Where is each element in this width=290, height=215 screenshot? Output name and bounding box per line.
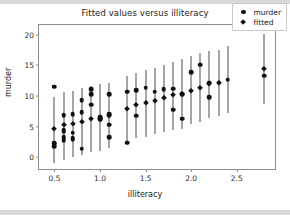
y-tick-label: 20 bbox=[24, 30, 34, 39]
x-axis-label: illiteracy bbox=[0, 190, 290, 199]
data-point-murder bbox=[80, 146, 85, 151]
data-point-fitted bbox=[188, 87, 194, 93]
plot-area bbox=[39, 25, 275, 169]
data-point-murder bbox=[52, 85, 57, 90]
data-point-murder bbox=[171, 86, 176, 91]
data-point-fitted bbox=[133, 102, 139, 108]
x-tick-mark bbox=[100, 169, 101, 172]
data-point-murder bbox=[143, 85, 148, 90]
data-point-murder bbox=[152, 89, 157, 94]
x-tick-mark bbox=[237, 169, 238, 172]
data-point-murder bbox=[61, 113, 66, 118]
data-point-fitted bbox=[70, 121, 76, 127]
data-point-murder bbox=[70, 112, 75, 117]
data-point-fitted bbox=[197, 84, 203, 90]
data-point-fitted bbox=[161, 95, 167, 101]
legend-label: murder bbox=[254, 8, 281, 17]
data-point-fitted bbox=[143, 100, 149, 106]
x-tick-mark bbox=[54, 169, 55, 172]
y-tick-mark bbox=[36, 157, 39, 158]
data-point-fitted bbox=[79, 119, 85, 125]
data-point-murder bbox=[80, 98, 85, 103]
y-tick-mark bbox=[36, 65, 39, 66]
data-point-murder bbox=[107, 92, 112, 97]
window-bottom-strip bbox=[0, 210, 290, 215]
data-point-fitted bbox=[51, 126, 57, 132]
data-point-murder bbox=[225, 77, 230, 82]
data-point-murder bbox=[207, 95, 212, 100]
data-point-murder bbox=[125, 89, 130, 94]
data-point-murder bbox=[70, 131, 75, 136]
data-point-murder bbox=[134, 88, 139, 93]
data-point-murder bbox=[198, 63, 203, 68]
y-tick-mark bbox=[36, 96, 39, 97]
y-tick-label: 0 bbox=[29, 153, 34, 162]
plot-axes: 051015200.51.01.52.02.5 bbox=[38, 24, 276, 170]
x-tick-label: 1.5 bbox=[140, 174, 152, 183]
data-point-murder bbox=[89, 87, 94, 92]
data-point-fitted bbox=[88, 116, 94, 122]
data-point-murder bbox=[80, 110, 85, 115]
y-tick-label: 5 bbox=[29, 122, 34, 131]
legend-item: fitted bbox=[237, 17, 281, 27]
data-point-fitted bbox=[170, 92, 176, 98]
data-point-murder bbox=[61, 138, 66, 143]
data-point-fitted bbox=[124, 106, 130, 112]
data-point-murder bbox=[89, 102, 94, 107]
legend-label: fitted bbox=[254, 18, 274, 27]
x-tick-label: 2.0 bbox=[185, 174, 197, 183]
legend-item: murder bbox=[237, 7, 281, 17]
legend: murderfitted bbox=[232, 3, 287, 31]
data-point-murder bbox=[134, 113, 139, 118]
y-axis-label: murder bbox=[4, 68, 13, 97]
y-tick-mark bbox=[36, 34, 39, 35]
data-point-murder bbox=[171, 107, 176, 112]
x-tick-label: 2.5 bbox=[231, 174, 243, 183]
y-tick-label: 10 bbox=[24, 92, 34, 101]
data-point-murder bbox=[262, 74, 267, 79]
data-point-murder bbox=[89, 92, 94, 97]
data-point-fitted bbox=[261, 66, 267, 72]
x-tick-mark bbox=[191, 169, 192, 172]
x-tick-label: 1.0 bbox=[94, 174, 106, 183]
data-point-murder bbox=[125, 140, 130, 145]
data-point-fitted bbox=[215, 80, 221, 86]
y-tick-label: 15 bbox=[24, 61, 34, 70]
data-point-murder bbox=[52, 144, 57, 149]
diamond-marker-icon bbox=[237, 20, 251, 24]
x-tick-mark bbox=[146, 169, 147, 172]
data-point-murder bbox=[107, 123, 112, 128]
x-tick-label: 0.5 bbox=[49, 174, 61, 183]
data-point-murder bbox=[180, 116, 185, 121]
data-point-murder bbox=[189, 70, 194, 75]
data-point-murder bbox=[61, 129, 66, 134]
data-point-fitted bbox=[152, 98, 158, 104]
circle-marker-icon bbox=[237, 10, 251, 14]
data-point-murder bbox=[70, 137, 75, 142]
figure-canvas: Fitted values versus illiteracy murder i… bbox=[0, 0, 290, 215]
y-tick-mark bbox=[36, 126, 39, 127]
data-point-murder bbox=[107, 135, 112, 140]
data-point-murder bbox=[162, 87, 167, 92]
